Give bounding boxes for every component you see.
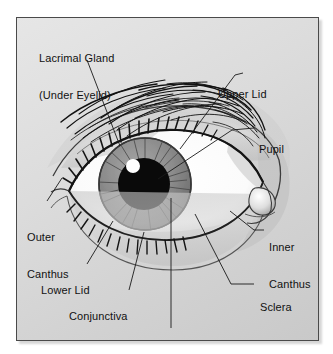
label-lacrimal-gland: Lacrimal Gland (Under Eyelid) <box>39 27 114 126</box>
lower-lid <box>67 182 267 270</box>
label-iris: Iris <box>159 323 178 341</box>
diagram-panel: Lacrimal Gland (Under Eyelid) Upper Lid … <box>16 17 319 341</box>
label-conjunctiva: Conjunctiva <box>69 285 128 341</box>
label-outer-canthus-line1: Outer <box>27 231 69 243</box>
label-lacrimal-gland-line1: Lacrimal Gland <box>39 52 114 64</box>
eye-anatomy-figure: Lacrimal Gland (Under Eyelid) Upper Lid … <box>0 0 333 354</box>
label-sclera-line1: Sclera <box>260 301 292 313</box>
leader-outer-canthus <box>47 178 62 201</box>
label-pupil-line1: Pupil <box>259 143 284 155</box>
label-upper-lid-line1: Upper Lid <box>218 88 267 100</box>
label-inner-canthus-line1: Inner <box>269 241 311 253</box>
label-pupil: Pupil <box>259 118 284 180</box>
label-lacrimal-gland-line2: (Under Eyelid) <box>39 89 114 101</box>
label-sclera: Sclera <box>260 276 292 338</box>
catchlight <box>126 159 140 173</box>
label-conjunctiva-line1: Conjunctiva <box>69 310 128 322</box>
label-upper-lid: Upper Lid <box>218 63 267 125</box>
